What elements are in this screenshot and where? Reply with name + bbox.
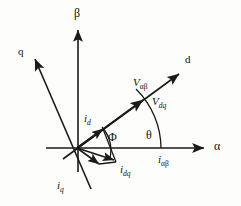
v-dq-symbol: V [152, 95, 159, 107]
vector-i-d [77, 129, 103, 148]
i-q-subscript: q [60, 185, 64, 194]
vector-diagram-svg [0, 0, 241, 206]
i-d-subscript: d [87, 118, 91, 127]
angle-label-phi: Φ [108, 131, 117, 143]
angle-label-theta: θ [146, 129, 152, 141]
v-dq-subscript: dq [159, 101, 167, 110]
vector-i-q [77, 148, 99, 164]
axis-q [35, 59, 91, 189]
vector-label-i-alphabeta: iαβ [158, 154, 169, 165]
axis-label-q: q [18, 46, 24, 57]
vector-label-v-alphabeta: Vαβ [133, 77, 147, 88]
vector-label-i-q: iq [57, 180, 64, 191]
i-dq-subscript: dq [123, 169, 131, 178]
axis-label-beta: β [74, 7, 80, 19]
i-alphabeta-subscript: αβ [161, 159, 169, 168]
v-alphabeta-subscript: αβ [140, 82, 148, 91]
figure-canvas: α β d q Vαβ Vdq id iq idq iαβ θ Φ [0, 0, 241, 206]
vector-label-v-dq: Vdq [152, 96, 166, 107]
v-alphabeta-symbol: V [133, 76, 140, 88]
axis-label-alpha: α [214, 140, 220, 152]
vector-i-dq [77, 148, 114, 160]
vector-label-i-dq: idq [120, 164, 131, 175]
vector-label-i-d: id [84, 113, 91, 124]
axis-label-d: d [185, 54, 191, 65]
